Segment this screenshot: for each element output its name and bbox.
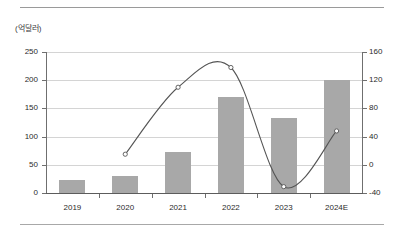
x-axis-tick — [257, 194, 258, 198]
x-axis-label-2024E: 2024E — [309, 204, 365, 212]
x-axis-tick — [152, 194, 153, 198]
line-marker-2022 — [229, 65, 233, 69]
left-axis-tick-label: 100 — [4, 133, 38, 141]
left-axis-tick-label: 200 — [4, 76, 38, 84]
right-axis-tick — [363, 80, 367, 81]
x-axis-label-2022: 2022 — [203, 204, 259, 212]
top-divider-rule — [20, 7, 384, 8]
x-axis-label-2021: 2021 — [150, 204, 206, 212]
right-axis-tick-label: -40 — [369, 189, 403, 197]
x-axis-label-2019: 2019 — [44, 204, 100, 212]
right-axis-tick — [363, 193, 367, 194]
right-axis-tick-label: 40 — [369, 133, 403, 141]
line-marker-2020 — [123, 152, 127, 156]
right-axis-tick-label: 0 — [369, 161, 403, 169]
chart-figure: (억달러) 050100150200250 -4004080120160 201… — [0, 0, 404, 232]
line-series-group — [46, 52, 363, 194]
right-axis-tick-label: 120 — [369, 76, 403, 84]
left-axis-tick-label: 50 — [4, 161, 38, 169]
line-marker-2021 — [176, 85, 180, 89]
line-marker-2024E — [334, 129, 338, 133]
x-axis-tick — [205, 194, 206, 198]
left-axis-tick-label: 150 — [4, 104, 38, 112]
line-marker-2023 — [282, 185, 286, 189]
right-axis-tick — [363, 165, 367, 166]
right-axis-tick-label: 80 — [369, 104, 403, 112]
left-axis-tick-label: 0 — [4, 189, 38, 197]
right-axis-tick-label: 160 — [369, 48, 403, 56]
y-axis-unit-label: (억달러) — [15, 22, 41, 33]
growth-rate-line — [125, 62, 336, 188]
x-axis-tick — [310, 194, 311, 198]
x-axis-tick — [99, 194, 100, 198]
right-axis-tick — [363, 108, 367, 109]
right-axis-tick — [363, 52, 367, 53]
right-axis-tick — [363, 137, 367, 138]
plot-area: 050100150200250 -4004080120160 201920202… — [46, 52, 363, 193]
x-axis-label-2023: 2023 — [256, 204, 312, 212]
bottom-divider-rule — [20, 224, 384, 225]
left-axis-tick-label: 250 — [4, 48, 38, 56]
x-axis-label-2020: 2020 — [97, 204, 153, 212]
